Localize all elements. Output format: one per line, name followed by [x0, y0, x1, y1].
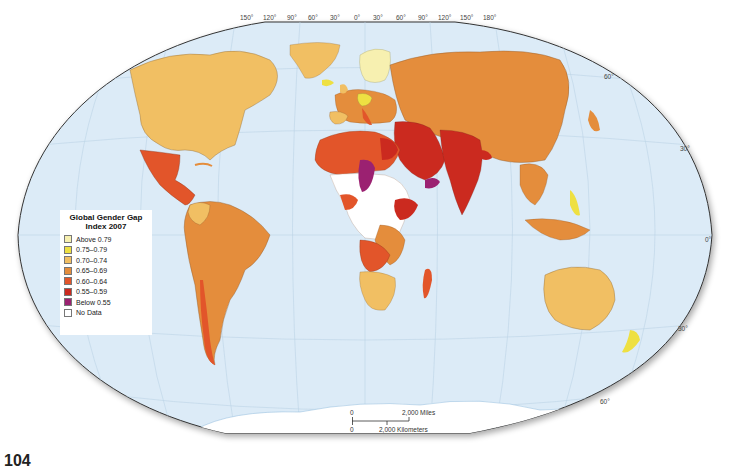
lon-label: 30°	[373, 14, 383, 21]
lon-label: 180°	[483, 14, 496, 21]
legend-swatch	[64, 246, 72, 254]
lat-label: 30°	[678, 325, 688, 332]
legend-swatch	[64, 277, 72, 285]
legend-item: Below 0.55	[64, 297, 148, 308]
legend-item: No Data	[64, 308, 148, 319]
scale-bar: 0 2,000 Miles 0 2,000 Kilometers	[322, 408, 462, 438]
map-legend: Global Gender Gap Index 2007 Above 0.79 …	[60, 210, 152, 335]
legend-item: 0.60–0.64	[64, 276, 148, 287]
lat-label: 30°	[680, 145, 690, 152]
lon-label: 90°	[418, 14, 428, 21]
lon-label: 0°	[354, 14, 360, 21]
legend-swatch	[64, 298, 72, 306]
legend-item: 0.70–0.74	[64, 255, 148, 266]
legend-title: Global Gender Gap Index 2007	[64, 213, 148, 231]
legend-item: 0.65–0.69	[64, 266, 148, 277]
legend-swatch	[64, 267, 72, 275]
legend-item: Above 0.79	[64, 234, 148, 245]
legend-swatch	[64, 235, 72, 243]
lon-label: 150°	[460, 14, 473, 21]
lon-label: 90°	[287, 14, 297, 21]
lat-label: 0°	[705, 236, 711, 243]
page-number: 104	[4, 452, 31, 470]
legend-item: 0.75–0.79	[64, 245, 148, 256]
nordic	[360, 49, 391, 82]
lat-label: 60°	[604, 73, 614, 80]
scale-km-label: 2,000 Kilometers	[379, 426, 428, 433]
scale-miles-label: 2,000 Miles	[402, 409, 435, 416]
legend-swatch	[64, 288, 72, 296]
scale-km-zero: 0	[350, 426, 354, 433]
lon-label: 60°	[308, 14, 318, 21]
legend-swatch	[64, 309, 72, 317]
lon-label: 150°	[240, 14, 253, 21]
lon-label: 60°	[396, 14, 406, 21]
legend-item: 0.55–0.59	[64, 287, 148, 298]
lat-label: 60°	[600, 398, 610, 405]
scale-miles-zero: 0	[350, 409, 354, 416]
legend-swatch	[64, 256, 72, 264]
lon-label: 120°	[263, 14, 276, 21]
lon-label: 120°	[438, 14, 451, 21]
lon-label: 30°	[330, 14, 340, 21]
